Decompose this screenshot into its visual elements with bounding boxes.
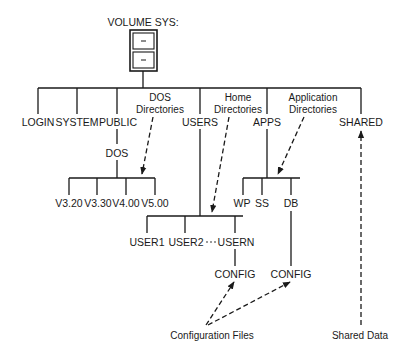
directory-tree-diagram: VOLUME SYS: LOGIN SYSTEM PUBLIC USERS AP… <box>0 0 402 356</box>
node-users: USERS <box>182 116 218 128</box>
file-cabinet-icon <box>130 30 157 71</box>
node-login: LOGIN <box>22 116 55 128</box>
volume-title: VOLUME SYS: <box>107 16 178 28</box>
annotation-home-line1: Home <box>214 92 262 104</box>
node-v3-20: V3.20 <box>55 197 82 209</box>
node-apps: APPS <box>253 116 281 128</box>
annotation-shared-data: Shared Data <box>332 330 388 342</box>
node-db: DB <box>284 197 299 209</box>
annotation-application-directories: Application Directories <box>289 92 338 115</box>
annotation-app-line1: Application <box>289 92 338 104</box>
ellipsis-dots <box>206 241 216 243</box>
node-config-usern: CONFIG <box>215 268 256 280</box>
annotation-dos-directories: DOS Directories <box>136 92 184 115</box>
annotation-home-line2: Directories <box>214 104 262 116</box>
node-dos: DOS <box>106 147 129 159</box>
node-user1: USER1 <box>129 236 164 248</box>
node-usern: USERN <box>218 236 255 248</box>
node-v4-00: V4.00 <box>112 197 139 209</box>
node-user2: USER2 <box>168 236 203 248</box>
annotation-home-directories: Home Directories <box>214 92 262 115</box>
annotation-configuration-files: Configuration Files <box>170 330 253 342</box>
application-directories-arrow <box>278 117 304 174</box>
node-ss: SS <box>255 197 269 209</box>
annotation-dos-line2: Directories <box>136 104 184 116</box>
node-v3-30: V3.30 <box>84 197 111 209</box>
dos-directories-arrow <box>142 117 153 174</box>
annotation-dos-line1: DOS <box>136 92 184 104</box>
node-shared: SHARED <box>339 116 383 128</box>
node-public: PUBLIC <box>99 116 137 128</box>
home-directories-arrow <box>212 117 229 212</box>
node-v5-00: V5.00 <box>141 197 168 209</box>
node-wp: WP <box>234 197 251 209</box>
tree-lines <box>0 0 402 356</box>
node-system: SYSTEM <box>55 116 98 128</box>
config-arrow-usern <box>206 282 234 325</box>
node-config-db: CONFIG <box>271 268 312 280</box>
annotation-app-line2: Directories <box>289 104 338 116</box>
